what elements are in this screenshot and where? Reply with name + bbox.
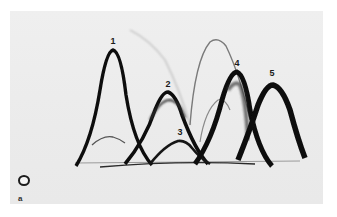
- peak-label-4: 4: [234, 59, 239, 68]
- precipitation-arcs: [0, 0, 337, 217]
- peak-label-1: 1: [110, 37, 115, 46]
- peak-label-3: 3: [177, 128, 182, 137]
- peak-label-2: 2: [165, 80, 170, 89]
- application-well-icon: [18, 175, 30, 186]
- peak-label-5: 5: [269, 69, 274, 78]
- panel-label: a: [18, 194, 22, 203]
